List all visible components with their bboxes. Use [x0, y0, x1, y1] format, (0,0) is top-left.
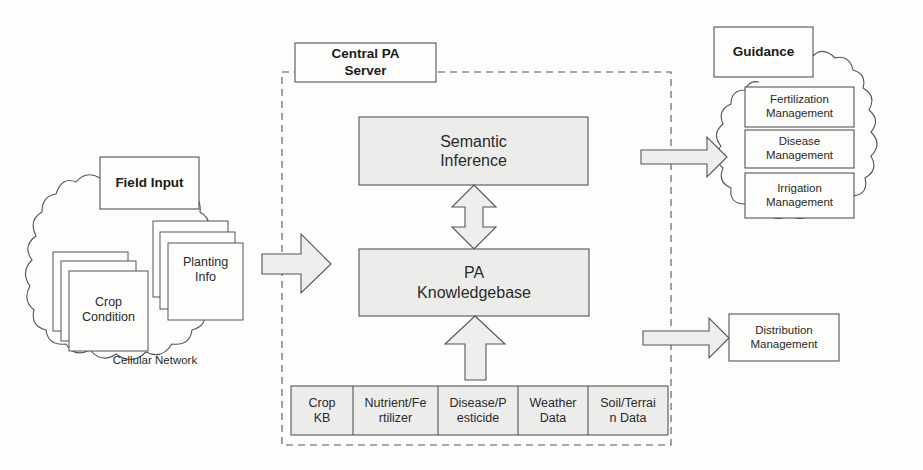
- data-source-disease-pesticide: Disease/P esticide: [438, 386, 518, 435]
- knowledgebase-label: PA Knowledgebase: [359, 249, 589, 316]
- irrigation-management-label: Irrigation Management: [745, 173, 854, 218]
- data-source-crop-kb: Crop KB: [291, 386, 353, 435]
- bidirectional-arrow-icon: [452, 185, 496, 249]
- disease-management-label: Disease Management: [745, 130, 854, 168]
- fertilization-management-label: Fertilization Management: [745, 87, 854, 127]
- up-arrow-icon: [445, 316, 505, 380]
- field-input-title: Field Input: [100, 157, 199, 209]
- cellular-network-label: Cellular Network: [90, 352, 220, 370]
- data-source-nutrient-fertilizer: Nutrient/Fe rtilizer: [353, 386, 438, 435]
- semantic-inference-label: Semantic Inference: [359, 117, 588, 185]
- distribution-arrow-icon: [643, 318, 729, 358]
- distribution-management-label: Distribution Management: [729, 314, 839, 361]
- guidance-title: Guidance: [714, 27, 813, 77]
- data-source-weather: Weather Data: [518, 386, 588, 435]
- central-server-title: Central PA Server: [295, 43, 436, 82]
- crop-condition-label: Crop Condition: [69, 280, 148, 340]
- data-source-soil-terrain: Soil/Terrai n Data: [588, 386, 668, 435]
- guidance-arrow-icon: [641, 137, 727, 177]
- field-input-arrow-icon: [262, 234, 331, 293]
- planting-info-label: Planting Info: [168, 250, 243, 290]
